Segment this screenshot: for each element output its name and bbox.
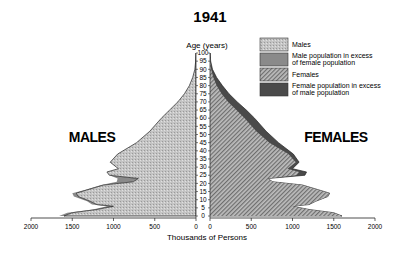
age-tick-label: 50 — [199, 131, 207, 138]
age-tick-label: 0 — [201, 212, 205, 219]
legend-swatch-female-excess — [260, 83, 288, 96]
x-axis: 20001500100050000500100015002000 — [24, 218, 383, 230]
x-tick-label-right: 1000 — [285, 223, 300, 230]
age-tick-label: 5 — [201, 204, 205, 211]
age-axis: 0510152025303540455055606570758085909510… — [196, 49, 210, 219]
x-tick-label-right: 2000 — [368, 223, 383, 230]
age-tick-label: 75 — [199, 90, 207, 97]
x-tick-label-left: 1000 — [106, 223, 121, 230]
x-tick-label-right: 1500 — [327, 223, 342, 230]
legend-swatch-male-excess — [260, 53, 288, 66]
age-tick-label: 60 — [199, 114, 207, 121]
age-tick-label: 35 — [199, 155, 207, 162]
age-tick-label: 45 — [199, 139, 207, 146]
legend-label-female-excess-2: of male population — [292, 89, 349, 97]
age-tick-label: 90 — [199, 66, 207, 73]
legend-swatch-females — [260, 68, 288, 81]
age-tick-label: 10 — [199, 196, 207, 203]
x-tick-label-right: 500 — [246, 223, 257, 230]
legend: Males Male population in excess of femal… — [260, 38, 381, 97]
population-pyramid-chart: 1941 Age (years) 05101520253035404550556… — [0, 0, 414, 256]
age-tick-label: 55 — [199, 123, 207, 130]
age-tick-label: 95 — [199, 57, 207, 64]
age-tick-label: 30 — [199, 163, 207, 170]
age-tick-label: 15 — [199, 188, 207, 195]
age-tick-label: 100 — [198, 49, 209, 56]
chart-title: 1941 — [193, 8, 226, 25]
x-axis-label: Thousands of Persons — [167, 233, 247, 242]
x-tick-label-right: 0 — [208, 223, 212, 230]
age-tick-label: 25 — [199, 171, 207, 178]
legend-label-males: Males — [292, 41, 311, 48]
males-side-label: MALES — [69, 129, 116, 145]
age-tick-label: 80 — [199, 82, 207, 89]
age-tick-label: 65 — [199, 106, 207, 113]
age-tick-label: 85 — [199, 74, 207, 81]
legend-swatch-males — [260, 38, 288, 51]
age-tick-label: 70 — [199, 98, 207, 105]
legend-label-females: Females — [292, 71, 319, 78]
x-tick-label-left: 500 — [149, 223, 160, 230]
females-side-label: FEMALES — [304, 129, 368, 145]
age-tick-label: 20 — [199, 180, 207, 187]
age-tick-label: 40 — [199, 147, 207, 154]
x-tick-label-left: 2000 — [24, 223, 39, 230]
x-tick-label-left: 0 — [194, 223, 198, 230]
x-tick-label-left: 1500 — [65, 223, 80, 230]
legend-label-male-excess-2: of female population — [292, 59, 355, 67]
